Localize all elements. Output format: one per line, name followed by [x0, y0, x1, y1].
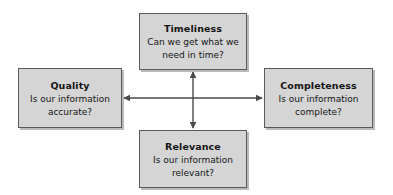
node-timeliness-question-line1: Can we get what we — [147, 36, 239, 48]
node-completeness-question-line1: Is our information — [279, 93, 359, 105]
node-completeness-question-line2: complete? — [295, 106, 342, 118]
node-completeness-title: Completeness — [280, 79, 357, 92]
node-relevance[interactable]: Relevance Is our information relevant? — [139, 130, 247, 188]
node-relevance-title: Relevance — [165, 140, 221, 153]
node-quality-question-line2: accurate? — [48, 106, 92, 118]
node-completeness[interactable]: Completeness Is our information complete… — [264, 68, 373, 128]
node-quality-title: Quality — [50, 79, 89, 92]
node-quality-question-line1: Is our information — [30, 93, 110, 105]
node-quality[interactable]: Quality Is our information accurate? — [18, 68, 122, 128]
information-quality-diagram: Timeliness Can we get what we need in ti… — [0, 0, 393, 195]
node-timeliness-question-line2: need in time? — [162, 49, 224, 61]
node-timeliness-title: Timeliness — [164, 22, 222, 35]
node-relevance-question-line2: relevant? — [172, 167, 214, 179]
node-relevance-question-line1: Is our information — [153, 154, 233, 166]
node-timeliness[interactable]: Timeliness Can we get what we need in ti… — [139, 13, 247, 70]
